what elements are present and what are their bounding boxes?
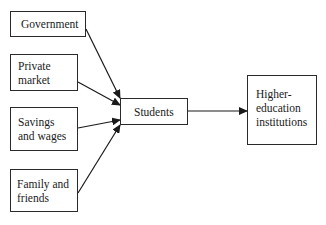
higher-education-label: Higher- education institutions [256,87,307,129]
savings-wages-box: Savings and wages [10,107,78,151]
higher-education-box: Higher- education institutions [247,75,317,145]
students-box: Students [120,98,188,125]
government-box: Government [10,11,86,37]
private-market-box: Private market [10,54,78,91]
students-label: Students [134,105,174,119]
savings-wages-label: Savings and wages [18,115,66,143]
arrow-savings-to-students [78,120,120,128]
family-friends-box: Family and friends [10,169,78,212]
arrow-family-to-students [78,125,120,193]
arrow-government-to-students [86,29,120,98]
government-label: Government [21,17,78,31]
family-friends-label: Family and friends [17,177,69,205]
private-market-label: Private market [18,59,51,87]
